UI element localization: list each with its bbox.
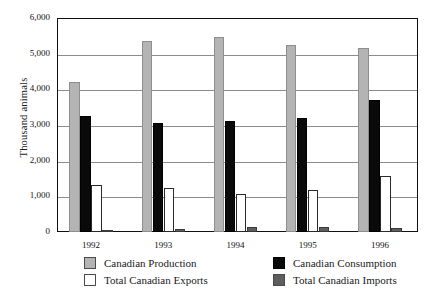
bar-chart-figure: Thousand animals 6,0005,0004,0003,0002,0… <box>0 0 432 297</box>
bar-series-layer <box>57 18 418 232</box>
chart-legend: Canadian ProductionCanadian ConsumptionT… <box>84 256 432 292</box>
legend-label: Total Canadian Imports <box>293 273 397 288</box>
bar-exports-1993 <box>164 188 175 232</box>
y-tick-label: 4,000 <box>2 84 50 93</box>
bar-production-1994 <box>214 37 225 232</box>
bar-group-1995 <box>286 18 330 232</box>
y-tick-label: 3,000 <box>2 120 50 129</box>
y-tick-label: 0 <box>2 227 50 236</box>
legend-swatch-exports-icon <box>84 274 96 286</box>
bar-consumption-1993 <box>153 123 164 232</box>
bar-imports-1993 <box>175 229 186 232</box>
bar-consumption-1994 <box>225 121 236 232</box>
legend-swatch-imports-icon <box>273 274 285 286</box>
bar-group-1994 <box>214 18 258 232</box>
legend-label: Canadian Consumption <box>293 256 397 271</box>
bar-consumption-1996 <box>369 100 380 232</box>
bar-group-1993 <box>142 18 186 232</box>
legend-label: Canadian Production <box>104 256 197 271</box>
bar-production-1996 <box>358 48 369 232</box>
bar-imports-1996 <box>391 228 402 232</box>
legend-swatch-production-icon <box>84 257 96 269</box>
bar-consumption-1995 <box>297 118 308 232</box>
y-axis-title: Thousand animals <box>18 43 29 193</box>
x-tick-label: 1996 <box>350 240 410 250</box>
bar-consumption-1992 <box>80 116 91 232</box>
y-tick-label: 6,000 <box>2 13 50 22</box>
bar-imports-1995 <box>319 227 330 232</box>
x-tick-label: 1993 <box>133 240 193 250</box>
bar-exports-1994 <box>236 194 247 232</box>
bar-production-1993 <box>142 41 153 232</box>
legend-label: Total Canadian Exports <box>104 273 208 288</box>
x-tick-label: 1995 <box>278 240 338 250</box>
bar-production-1992 <box>69 82 80 232</box>
bar-exports-1992 <box>91 185 102 232</box>
bar-imports-1994 <box>247 227 258 232</box>
bar-exports-1996 <box>380 176 391 232</box>
bar-group-1992 <box>69 18 113 232</box>
bar-group-1996 <box>358 18 402 232</box>
cut-off-title <box>6 0 426 6</box>
y-tick-label: 1,000 <box>2 191 50 200</box>
x-tick-label: 1992 <box>61 240 121 250</box>
legend-swatch-consumption-icon <box>273 257 285 269</box>
x-tick-label: 1994 <box>206 240 266 250</box>
bar-imports-1992 <box>102 230 113 232</box>
bar-production-1995 <box>286 45 297 232</box>
y-tick-label: 5,000 <box>2 49 50 58</box>
y-tick-label: 2,000 <box>2 156 50 165</box>
bar-exports-1995 <box>308 190 319 232</box>
